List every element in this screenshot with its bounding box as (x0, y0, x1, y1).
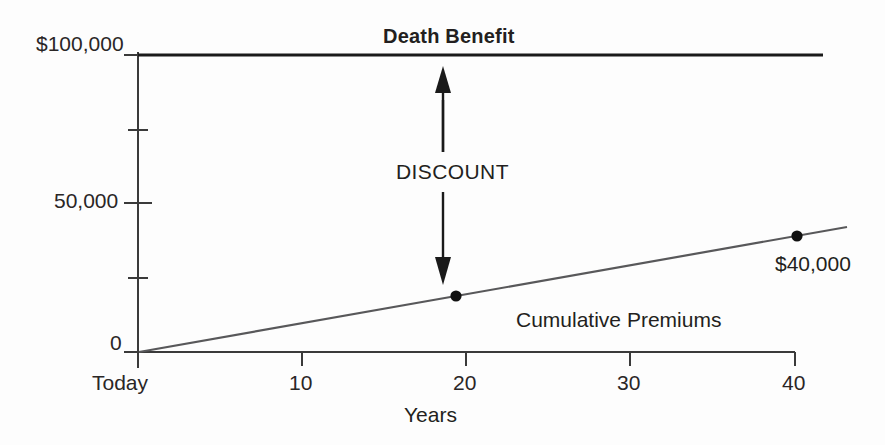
discount-arrow-up-head (435, 66, 451, 93)
death-benefit-label: Death Benefit (383, 26, 515, 46)
y-axis-label-50000: 50,000 (54, 190, 118, 211)
x-axis-label-40: 40 (782, 372, 805, 393)
x-axis-label-10: 10 (289, 372, 312, 393)
discount-annotation-label: DISCOUNT (396, 161, 509, 182)
y-axis-label-100000: $100,000 (36, 33, 124, 54)
data-point-40000 (791, 230, 802, 241)
x-axis-label-20: 20 (453, 372, 476, 393)
chart-figure: $100,000 50,000 0 Today 10 20 30 40 Year… (0, 0, 885, 445)
data-point-year-21 (450, 290, 461, 301)
x-axis-label-today: Today (92, 372, 148, 393)
cumulative-premiums-label: Cumulative Premiums (516, 309, 721, 330)
discount-arrow-down-head (435, 257, 451, 285)
x-axis-title: Years (404, 404, 457, 425)
x-axis-label-30: 30 (617, 372, 640, 393)
y-axis-label-0: 0 (110, 332, 122, 353)
cumulative-premiums-line (139, 227, 847, 352)
data-point-label-40000: $40,000 (775, 253, 851, 274)
